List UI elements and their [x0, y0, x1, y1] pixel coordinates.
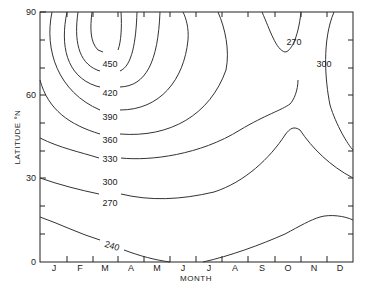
contour-chart: 0 30 60 90 J F M A M J J A S O N D MONTH… [0, 0, 365, 288]
x-tick-dec: D [337, 263, 344, 273]
contour-lines [40, 12, 353, 262]
contour-450 [91, 12, 121, 52]
x-tick-jul: J [207, 263, 212, 273]
contour-label-420: 420 [102, 88, 117, 98]
x-tick-sep: S [259, 263, 265, 273]
contour-label-390: 390 [102, 112, 117, 122]
y-tick-30: 30 [26, 173, 36, 183]
x-tick-jun: J [181, 263, 186, 273]
x-tick-mar: M [101, 263, 109, 273]
y-tick-0: 0 [31, 257, 36, 267]
contour-label-240: 240 [103, 239, 120, 253]
contour-label-300: 300 [102, 177, 117, 187]
contour-300 [40, 80, 298, 159]
contour-330 [40, 12, 227, 134]
y-axis-title: LATITUDE °N [13, 110, 22, 165]
contour-240 [40, 216, 353, 262]
contour-label-270: 270 [102, 198, 117, 208]
x-tick-oct: O [284, 263, 291, 273]
contour-label-270-top: 270 [286, 37, 301, 47]
plot-frame [40, 12, 353, 262]
x-axis-title: MONTH [180, 274, 212, 283]
contour-300-right [326, 12, 353, 150]
x-tick-feb: F [77, 263, 83, 273]
y-tick-90: 90 [26, 7, 36, 17]
x-tick-jan: J [52, 263, 57, 273]
contour-label-300-right: 300 [316, 59, 331, 69]
contour-label-360: 360 [102, 135, 117, 145]
y-tick-60: 60 [26, 90, 36, 100]
x-tick-nov: N [311, 263, 318, 273]
contour-label-450: 450 [102, 59, 117, 69]
contour-labels: 450 420 390 360 330 300 270 240 270 300 [102, 37, 331, 253]
x-tick-may: M [153, 263, 161, 273]
x-tick-labels: J F M A M J J A S O N D [52, 263, 344, 273]
x-tick-aug: A [232, 263, 238, 273]
contour-label-330: 330 [102, 154, 117, 164]
contour-360 [50, 12, 188, 110]
y-axis-ticks [40, 12, 353, 234]
x-tick-apr: A [128, 263, 134, 273]
contour-270 [40, 128, 353, 199]
